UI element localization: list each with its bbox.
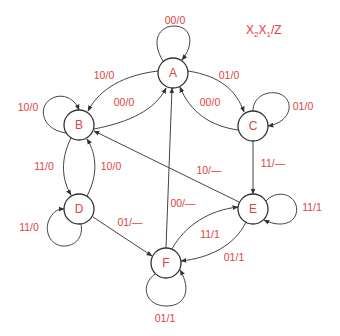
- transition-label-a-b: 10/0: [94, 69, 115, 81]
- transition-b-a: [94, 88, 166, 129]
- state-c: C: [238, 111, 268, 141]
- transition-label-e-b: 10/—: [196, 164, 222, 176]
- transition-label-b-b: 10/0: [18, 101, 39, 113]
- transition-b-d: [63, 138, 71, 195]
- state-label-e: E: [249, 202, 257, 216]
- transition-label-f-e: 11/1: [200, 228, 220, 240]
- state-diagram: X2X1/Z: [0, 0, 340, 336]
- state-f: F: [151, 248, 181, 278]
- transition-label-c-a: 00/0: [200, 96, 221, 108]
- state-label-f: F: [162, 256, 169, 270]
- transition-label-c-c: 01/0: [293, 100, 314, 112]
- transition-e-e: [264, 194, 297, 224]
- transition-label-a-c: 01/0: [219, 69, 240, 81]
- transition-label-c-e: 11/—: [261, 157, 286, 169]
- transition-label-d-d: 11/0: [19, 221, 39, 233]
- transition-c-a: [180, 87, 238, 130]
- state-label-d: D: [75, 202, 84, 216]
- transition-label-b-d: 11/0: [34, 160, 54, 172]
- transition-d-b: [87, 139, 95, 196]
- transition-label-e-e: 11/1: [302, 201, 322, 213]
- transition-label-a-a: 00/0: [165, 14, 186, 26]
- transition-label-b-a: 00/0: [114, 96, 135, 108]
- state-d: D: [64, 194, 94, 224]
- state-label-a: A: [169, 66, 177, 80]
- transition-label-e-f: 01/1: [224, 251, 245, 263]
- state-a: A: [158, 58, 188, 88]
- transition-label-f-a: 00/—: [170, 197, 196, 209]
- legend-label: X2X1/Z: [246, 23, 282, 39]
- transition-a-a: [157, 26, 190, 61]
- transition-label-f-f: 01/1: [155, 312, 176, 324]
- state-label-c: C: [249, 119, 258, 133]
- transition-f-a: [166, 88, 172, 248]
- state-e: E: [238, 194, 268, 224]
- transition-label-d-f: 01/—: [117, 216, 143, 228]
- transition-label-d-b: 10/0: [101, 160, 122, 172]
- state-label-b: B: [75, 118, 83, 132]
- state-b: B: [64, 110, 94, 140]
